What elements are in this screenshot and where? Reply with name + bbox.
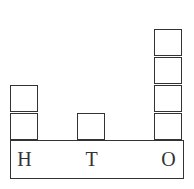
ones-block [154, 113, 182, 140]
hundreds-label: H [10, 148, 39, 171]
tens-block [77, 113, 105, 140]
hundreds-block [10, 85, 38, 112]
ones-block [154, 85, 182, 112]
ones-label: O [154, 148, 183, 171]
ones-block [154, 57, 182, 84]
ones-block [154, 29, 182, 56]
hundreds-block [10, 113, 38, 140]
tens-label: T [77, 148, 106, 171]
